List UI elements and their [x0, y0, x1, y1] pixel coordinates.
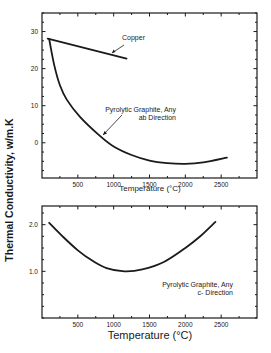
bottom-chart: 50010001500200025001.02.0 Pyrolytic Grap… [29, 206, 257, 341]
bottom-chart-frame [42, 206, 257, 318]
y-tick-label: 20 [31, 65, 39, 72]
y-tick-label: 30 [31, 28, 39, 35]
series-copper [48, 39, 127, 59]
graphite-c-label-line2: c- Direction [198, 289, 234, 296]
graphite-c-label-line1: Pyrolytic Graphite, Any [162, 281, 233, 289]
graphite-ab-arrow [103, 115, 122, 135]
top-chart-curves [48, 39, 227, 164]
x-tick-label: 1500 [142, 321, 157, 328]
x-tick-label: 500 [72, 321, 83, 328]
copper-label: Copper [122, 34, 146, 42]
bottom-chart-x-axis-label: Temperature (°C) [108, 329, 192, 341]
figure: Thermal Conductivity, w/m.K 500100015002… [0, 0, 271, 353]
top-chart-frame [42, 13, 257, 178]
bottom-chart-curves [49, 222, 215, 272]
x-tick-label: 2000 [178, 321, 193, 328]
y-tick-label: 2.0 [29, 221, 38, 228]
x-tick-label: 2500 [214, 321, 229, 328]
y-tick-label: 0 [34, 139, 38, 146]
bottom-chart-annotations: Pyrolytic Graphite, Any c- Direction [162, 281, 233, 296]
top-chart-annotations: Copper Pyrolytic Graphite, Any ab Direct… [103, 34, 176, 135]
graphite-ab-label-line2: ab Direction [139, 114, 176, 121]
top-chart-x-axis-label: Temperature (°C) [119, 184, 181, 193]
y-axis-label: Thermal Conductivity, w/m.K [3, 118, 15, 262]
x-tick-label: 500 [72, 181, 83, 188]
y-tick-label: 10 [31, 102, 39, 109]
graphite-ab-label-line1: Pyrolytic Graphite, Any [105, 106, 176, 114]
y-tick-label: 1.0 [29, 268, 38, 275]
bottom-chart-ticks: 50010001500200025001.02.0 [29, 206, 257, 328]
series-pyrolytic-graphite-any-c-direction [49, 222, 215, 272]
x-tick-label: 1000 [106, 321, 121, 328]
top-chart: 50010001500200025000102030 Copper Pyroly… [31, 13, 257, 193]
series-pyrolytic-graphite-any-ab-direction [49, 39, 227, 164]
x-tick-label: 2500 [214, 181, 229, 188]
